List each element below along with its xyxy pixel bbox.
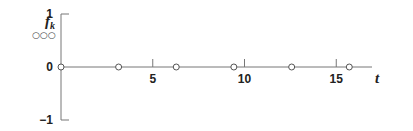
x-tick-label: 5 <box>149 72 156 86</box>
x-axis-title: t <box>375 70 380 86</box>
data-point <box>231 64 237 70</box>
data-point <box>58 64 64 70</box>
axes: 10−151015 <box>39 7 372 127</box>
chart: fk ○○○ 10−151015 t <box>0 0 413 131</box>
data-point <box>289 64 295 70</box>
y-tick-label: 0 <box>46 60 53 74</box>
y-tick-label: 1 <box>46 7 53 21</box>
data-point <box>173 64 179 70</box>
x-tick-label: 15 <box>330 72 344 86</box>
data-point <box>346 64 352 70</box>
x-tick-label: 10 <box>238 72 252 86</box>
y-tick-label: −1 <box>39 113 53 127</box>
data-point <box>116 64 122 70</box>
legend-marker: ○○○ <box>32 30 56 40</box>
